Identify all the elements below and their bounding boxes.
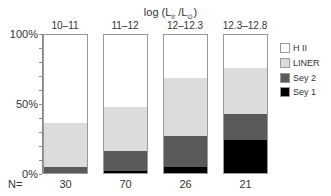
y-tick-label: 100% bbox=[0, 28, 38, 40]
legend-swatch bbox=[280, 58, 290, 68]
y-tick bbox=[39, 104, 42, 105]
bar-segment-sey1 bbox=[104, 171, 147, 173]
category-label: 12.3–12.8 bbox=[215, 20, 275, 31]
legend-swatch bbox=[280, 73, 290, 83]
bar-group bbox=[223, 34, 268, 174]
bar-segment-hii bbox=[104, 35, 147, 107]
bar-segment-hii bbox=[44, 35, 87, 123]
bar-group bbox=[163, 34, 208, 174]
legend-label: Sey 2 bbox=[293, 73, 316, 83]
legend-item-sey2: Sey 2 bbox=[280, 72, 316, 84]
bar-segment-liner bbox=[104, 106, 147, 151]
y-tick bbox=[39, 76, 42, 77]
bar-segment-sey1 bbox=[164, 167, 207, 173]
bar-segment-sey2 bbox=[104, 151, 147, 171]
legend-label: Sey 1 bbox=[293, 87, 316, 97]
y-tick bbox=[39, 132, 42, 133]
legend-item-hii: H II bbox=[280, 42, 307, 54]
category-label: 12–12.3 bbox=[155, 20, 215, 31]
legend-item-sey1: Sey 1 bbox=[280, 86, 316, 98]
y-tick bbox=[39, 146, 42, 147]
n-value: 30 bbox=[43, 178, 88, 190]
bar-segment-liner bbox=[44, 122, 87, 167]
n-value: 21 bbox=[223, 178, 268, 190]
y-tick bbox=[39, 48, 42, 49]
n-value: 26 bbox=[163, 178, 208, 190]
y-tick bbox=[39, 118, 42, 119]
y-tick-label: 50% bbox=[0, 98, 38, 110]
legend-swatch bbox=[280, 87, 290, 97]
y-tick bbox=[39, 34, 42, 35]
legend-item-liner: LINER bbox=[280, 57, 320, 69]
y-tick bbox=[39, 90, 42, 91]
bar-segment-liner bbox=[164, 77, 207, 136]
n-label: N= bbox=[8, 178, 22, 190]
category-label: 11–12 bbox=[95, 20, 155, 31]
y-tick bbox=[39, 174, 42, 175]
legend-label: LINER bbox=[293, 58, 320, 68]
bar-segment-sey2 bbox=[44, 167, 87, 173]
y-tick bbox=[39, 160, 42, 161]
bar-segment-liner bbox=[224, 67, 267, 114]
bar-segment-sey2 bbox=[224, 114, 267, 140]
bar-segment-sey2 bbox=[164, 136, 207, 168]
bar-segment-hii bbox=[224, 35, 267, 68]
chart-title: log (Lir /L⊙) bbox=[0, 6, 331, 21]
y-tick bbox=[39, 62, 42, 63]
bar-group bbox=[103, 34, 148, 174]
legend-label: H II bbox=[293, 43, 307, 53]
bar-group bbox=[43, 34, 88, 174]
bar-segment-hii bbox=[164, 35, 207, 78]
n-value: 70 bbox=[103, 178, 148, 190]
category-label: 10–11 bbox=[35, 20, 95, 31]
legend-swatch bbox=[280, 43, 290, 53]
bar-segment-sey1 bbox=[224, 140, 267, 173]
